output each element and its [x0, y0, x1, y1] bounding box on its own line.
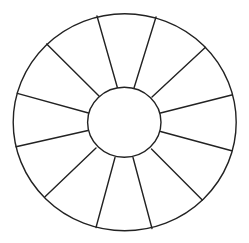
center-circle	[88, 87, 161, 157]
wheel-diagram	[0, 0, 249, 243]
color-wheel-template	[0, 0, 249, 243]
